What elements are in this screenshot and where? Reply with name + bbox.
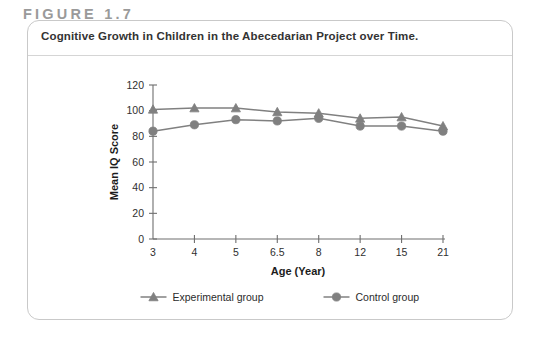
figure-caption: Cognitive Growth in Children in the Abec… xyxy=(41,30,418,42)
figure-container: FIGURE 1.7 Cognitive Growth in Children … xyxy=(0,0,540,337)
figure-card: Cognitive Growth in Children in the Abec… xyxy=(27,20,513,320)
caption-divider xyxy=(28,55,512,56)
